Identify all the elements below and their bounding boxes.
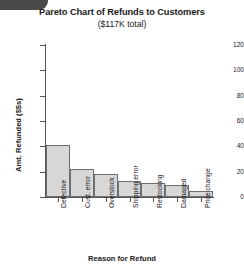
x-tick [177, 197, 178, 202]
x-category-label: Cust. error [84, 176, 91, 208]
x-category-label: Price change [204, 168, 211, 208]
chart-title: Pareto Chart of Refunds to Customers [0, 7, 244, 17]
x-category-label: Restocking [156, 174, 163, 208]
y-tick-label: 120 [210, 41, 244, 48]
y-tick [40, 197, 45, 198]
x-tick [201, 197, 202, 202]
y-tick [40, 96, 45, 97]
y-axis-title: Amt. Refunded ($$s) [14, 98, 23, 172]
y-tick [40, 45, 45, 46]
x-axis-title: Reason for Refund [0, 254, 244, 263]
x-tick [106, 197, 107, 202]
x-tick [130, 197, 131, 202]
y-tick [40, 172, 45, 173]
y-tick [40, 146, 45, 147]
y-tick-label: 0 [210, 193, 244, 200]
y-tick-label: 80 [210, 92, 244, 99]
pareto-chart: Pareto Chart of Refunds to Customers ($1… [0, 0, 244, 275]
y-tick-label: 20 [210, 168, 244, 175]
y-tick-label: 60 [210, 117, 244, 124]
x-tick [58, 197, 59, 202]
x-category-label: Shipping error [132, 165, 139, 208]
y-tick-label: 40 [210, 142, 244, 149]
x-category-label: Defective [60, 180, 67, 208]
chart-subtitle: ($117K total) [0, 19, 244, 29]
x-category-label: Overstock [108, 177, 115, 208]
x-tick [82, 197, 83, 202]
y-tick-label: 100 [210, 66, 244, 73]
y-tick [40, 70, 45, 71]
x-category-label: Damaged [180, 179, 187, 208]
y-tick [40, 121, 45, 122]
x-tick [153, 197, 154, 202]
